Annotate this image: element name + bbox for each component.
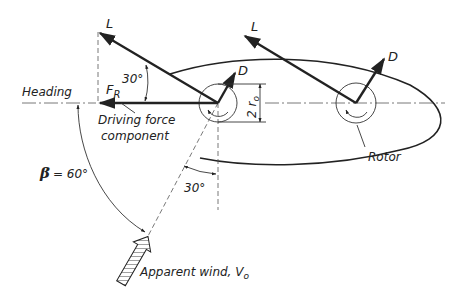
rotor-leader (357, 125, 365, 147)
ship-hull (170, 59, 441, 165)
rotor-label: Rotor (368, 150, 402, 164)
drag-label-front: D (238, 63, 248, 78)
lift-label-rear: L (251, 19, 258, 34)
drag-vector-rear (356, 59, 384, 103)
driving-force-leader (121, 103, 135, 113)
drag-vector-front (218, 73, 235, 103)
lift-angle-label: 30° (122, 72, 143, 86)
driving-force-label-line2: component (101, 129, 170, 143)
lift-vector-rear (245, 36, 356, 103)
lift-angle-arc (145, 65, 148, 101)
beta-angle-label: β= 60° (39, 164, 88, 182)
resultant-force-label: FR (106, 82, 120, 100)
driving-force-label-line1: Driving force (98, 113, 175, 127)
rotor-ship-diagram: L D L D Heading FR 30° Driving force com… (0, 0, 458, 304)
wind-offset-angle-label: 30° (184, 181, 205, 195)
apparent-wind-arrow (112, 232, 156, 289)
diameter-label: 2 ro (245, 96, 261, 118)
drag-label-rear: D (388, 49, 398, 64)
lift-label-front: L (106, 16, 113, 31)
heading-label: Heading (22, 85, 72, 99)
apparent-wind-label: Apparent wind, Vo (139, 265, 249, 281)
wind-offset-angle-arc (184, 166, 216, 174)
